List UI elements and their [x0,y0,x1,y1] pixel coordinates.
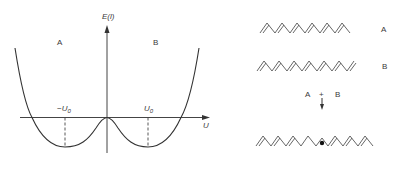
chain-b-label: B [382,63,387,71]
axes [20,31,204,153]
combine-plus: + [319,91,324,99]
tick-label-u0: U0 [144,105,153,114]
soliton-dot-icon [320,141,324,145]
combine-right-label: B [335,91,340,99]
chain-a [260,23,350,33]
x-axis-arrow-icon [202,115,210,120]
arrow-down-icon [320,104,324,110]
region-label-a: A [57,39,62,47]
chain-b [257,61,356,71]
combine-left-label: A [305,91,310,99]
chain-a-label: A [381,26,386,34]
chain-soliton [256,136,373,146]
x-axis-label: U [203,122,209,130]
figure-canvas [0,0,418,192]
y-axis-label: E(l) [102,13,114,21]
tick-label-minus-u0: −U0 [57,105,71,114]
y-axis-arrow-icon [105,25,110,33]
region-label-b: B [153,39,158,47]
reaction-arrow [320,98,324,110]
